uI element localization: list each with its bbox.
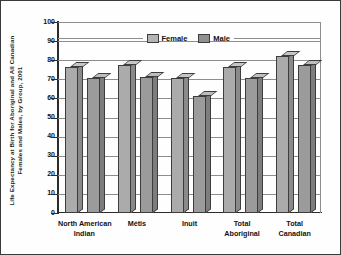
category-label-3: TotalAboriginal (216, 219, 269, 238)
legend-swatch-female (147, 34, 159, 43)
legend-label: Female (162, 34, 188, 43)
chart-legend: FemaleMale (58, 32, 321, 45)
y-tick-mark (51, 213, 57, 214)
y-tick-mark (51, 60, 57, 61)
y-tick-mark (51, 41, 57, 42)
bar-side-face (153, 73, 158, 213)
legend-rule-left (58, 38, 143, 39)
legend-rule-right (234, 38, 322, 39)
bar-side-face (184, 74, 189, 213)
y-axis-title-line-1: Life Expectancy at Birth for Aboriginal … (8, 36, 16, 206)
y-tick-mark (51, 22, 57, 23)
bar-side-face (236, 63, 241, 213)
bar-front-face (223, 67, 236, 213)
x-axis-category-labels: North AmericanIndianMétisInuitTotalAbori… (58, 219, 321, 249)
category-label-line: Métis (111, 219, 164, 229)
bar-front-face (118, 65, 131, 213)
y-tick-mark (51, 175, 57, 176)
y-axis-title-line-2: Females and Males, by Group, 2001 (16, 36, 24, 206)
bar-front-face (87, 78, 100, 213)
bar-side-face (311, 61, 316, 213)
category-label-line: Canadian (268, 229, 321, 239)
category-label-2: Inuit (163, 219, 216, 229)
bar-front-face (276, 56, 289, 213)
y-tick-mark (51, 137, 57, 138)
category-label-line: Indian (58, 229, 111, 239)
bar-side-face (131, 61, 136, 213)
category-label-line: Total (268, 219, 321, 229)
y-tick-label: 90 (33, 37, 55, 44)
category-label-line: Aboriginal (216, 229, 269, 239)
y-tick-label: 50 (33, 113, 55, 120)
bar-front-face (171, 78, 184, 213)
category-label-0: North AmericanIndian (58, 219, 111, 238)
y-tick-label: 100 (33, 18, 55, 25)
legend-item-female[interactable]: Female (147, 32, 188, 44)
y-tick-label: 10 (33, 189, 55, 196)
bar-side-face (289, 52, 294, 213)
y-tick-mark (51, 156, 57, 157)
y-tick-label: 40 (33, 132, 55, 139)
y-tick-label: 70 (33, 75, 55, 82)
y-tick-label: 80 (33, 56, 55, 63)
bar-front-face (298, 65, 311, 213)
y-tick-label: 60 (33, 94, 55, 101)
y-tick-mark (51, 118, 57, 119)
bar-front-face (193, 96, 206, 213)
bar-front-face (65, 67, 78, 213)
bar-side-face (258, 74, 263, 213)
category-label-line: Inuit (163, 219, 216, 229)
y-tick-mark (51, 194, 57, 195)
legend-swatch-male (198, 34, 210, 43)
bar-side-face (78, 63, 83, 213)
y-tick-label: 30 (33, 151, 55, 158)
bar-side-face (100, 74, 105, 213)
plot-area (58, 22, 321, 213)
chart-figure: Life Expectancy at Birth for Aboriginal … (0, 0, 341, 255)
category-label-line: North American (58, 219, 111, 229)
legend-item-male[interactable]: Male (198, 32, 230, 44)
category-label-4: TotalCanadian (268, 219, 321, 238)
bar-side-face (206, 92, 211, 213)
bar-front-face (140, 77, 153, 213)
y-tick-label: 20 (33, 170, 55, 177)
y-tick-label: 0 (33, 209, 55, 216)
y-tick-mark (51, 79, 57, 80)
y-tick-mark (51, 98, 57, 99)
legend-label: Male (213, 34, 230, 43)
category-label-1: Métis (111, 219, 164, 229)
bar-front-face (245, 78, 258, 213)
y-axis-tick-labels: 0102030405060708090100 (25, 1, 55, 255)
gridline (58, 22, 321, 23)
category-label-line: Total (216, 219, 269, 229)
